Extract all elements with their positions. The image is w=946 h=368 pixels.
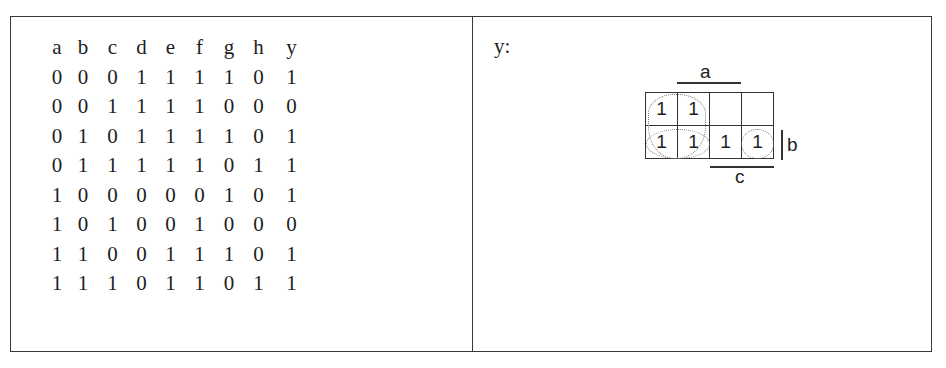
karnaugh-map: 1 1 1 1 1 1 bbox=[645, 92, 774, 160]
header-g: g bbox=[214, 33, 244, 63]
kmap-cell: 1 bbox=[678, 93, 710, 126]
header-a: a bbox=[46, 33, 68, 63]
cell: 1 bbox=[185, 240, 214, 270]
cell: 1 bbox=[98, 269, 127, 299]
header-c: c bbox=[98, 33, 127, 63]
cell: 0 bbox=[244, 63, 273, 93]
cell: 0 bbox=[214, 151, 244, 181]
cell: 0 bbox=[244, 92, 273, 122]
cell: 1 bbox=[185, 269, 214, 299]
cell: 0 bbox=[46, 92, 68, 122]
cell: 1 bbox=[127, 122, 156, 152]
var-b-label: b bbox=[787, 134, 798, 156]
cell: 1 bbox=[156, 151, 185, 181]
cell: 0 bbox=[185, 181, 214, 211]
header-d: d bbox=[127, 33, 156, 63]
table-row: 1 1 1 0 1 1 0 1 1 bbox=[46, 269, 310, 299]
table-row: 0 1 0 1 1 1 1 0 1 bbox=[46, 122, 310, 152]
cell: 1 bbox=[244, 151, 273, 181]
cell: 1 bbox=[156, 269, 185, 299]
cell: 0 bbox=[214, 92, 244, 122]
header-h: h bbox=[244, 33, 273, 63]
cell: 1 bbox=[185, 63, 214, 93]
cell: 1 bbox=[46, 181, 68, 211]
kmap-cell: 1 bbox=[742, 126, 774, 159]
kmap-row: 1 1 1 1 bbox=[646, 126, 774, 159]
cell: 1 bbox=[68, 151, 98, 181]
cell: 1 bbox=[273, 63, 310, 93]
cell: 1 bbox=[185, 210, 214, 240]
cell: 1 bbox=[214, 63, 244, 93]
kmap-grid: 1 1 1 1 1 1 bbox=[645, 92, 774, 159]
cell: 1 bbox=[98, 210, 127, 240]
var-b-bar bbox=[781, 130, 783, 160]
cell: 0 bbox=[127, 181, 156, 211]
cell: 0 bbox=[244, 122, 273, 152]
cell: 1 bbox=[185, 151, 214, 181]
cell: 1 bbox=[273, 269, 310, 299]
cell: 0 bbox=[127, 269, 156, 299]
cell: 1 bbox=[46, 210, 68, 240]
header-e: e bbox=[156, 33, 185, 63]
cell: 1 bbox=[68, 269, 98, 299]
header-y: y bbox=[273, 33, 310, 63]
cell: 1 bbox=[46, 269, 68, 299]
truth-table: a b c d e f g h y 0 0 0 1 1 1 1 0 1 0 0 … bbox=[46, 33, 310, 299]
header-b: b bbox=[68, 33, 98, 63]
cell: 0 bbox=[68, 92, 98, 122]
var-a-label: a bbox=[700, 61, 711, 83]
cell: 1 bbox=[273, 151, 310, 181]
cell: 1 bbox=[185, 92, 214, 122]
cell: 1 bbox=[244, 269, 273, 299]
cell: 1 bbox=[68, 122, 98, 152]
cell: 0 bbox=[68, 181, 98, 211]
cell: 0 bbox=[244, 240, 273, 270]
kmap-cell bbox=[742, 93, 774, 126]
cell: 0 bbox=[214, 210, 244, 240]
table-row: 1 0 1 0 0 1 0 0 0 bbox=[46, 210, 310, 240]
cell: 0 bbox=[46, 63, 68, 93]
cell: 1 bbox=[98, 92, 127, 122]
cell: 0 bbox=[46, 122, 68, 152]
cell: 1 bbox=[185, 122, 214, 152]
table-row: 0 0 0 1 1 1 1 0 1 bbox=[46, 63, 310, 93]
cell: 1 bbox=[214, 240, 244, 270]
cell: 0 bbox=[127, 210, 156, 240]
cell: 0 bbox=[98, 240, 127, 270]
cell: 0 bbox=[68, 210, 98, 240]
truth-table-header: a b c d e f g h y bbox=[46, 33, 310, 63]
cell: 0 bbox=[127, 240, 156, 270]
cell: 1 bbox=[127, 92, 156, 122]
kmap-cell bbox=[710, 93, 742, 126]
cell: 0 bbox=[244, 181, 273, 211]
kmap-cell: 1 bbox=[710, 126, 742, 159]
table-row: 0 1 1 1 1 1 0 1 1 bbox=[46, 151, 310, 181]
cell: 0 bbox=[46, 151, 68, 181]
cell: 1 bbox=[156, 92, 185, 122]
cell: 0 bbox=[156, 181, 185, 211]
cell: 0 bbox=[68, 63, 98, 93]
cell: 0 bbox=[273, 210, 310, 240]
var-c-label: c bbox=[735, 166, 745, 188]
kmap-cell: 1 bbox=[678, 126, 710, 159]
cell: 0 bbox=[98, 181, 127, 211]
table-row: 1 1 0 0 1 1 1 0 1 bbox=[46, 240, 310, 270]
header-f: f bbox=[185, 33, 214, 63]
table-row: 0 0 1 1 1 1 0 0 0 bbox=[46, 92, 310, 122]
cell: 0 bbox=[156, 210, 185, 240]
kmap-cell: 1 bbox=[646, 93, 678, 126]
cell: 0 bbox=[98, 122, 127, 152]
cell: 1 bbox=[98, 151, 127, 181]
cell: 0 bbox=[273, 92, 310, 122]
cell: 1 bbox=[156, 63, 185, 93]
table-row: 1 0 0 0 0 0 1 0 1 bbox=[46, 181, 310, 211]
cell: 1 bbox=[273, 240, 310, 270]
cell: 0 bbox=[244, 210, 273, 240]
cell: 1 bbox=[214, 181, 244, 211]
kmap-row: 1 1 bbox=[646, 93, 774, 126]
cell: 0 bbox=[214, 269, 244, 299]
cell: 1 bbox=[214, 122, 244, 152]
panel-divider bbox=[472, 16, 473, 352]
cell: 1 bbox=[156, 240, 185, 270]
cell: 1 bbox=[46, 240, 68, 270]
